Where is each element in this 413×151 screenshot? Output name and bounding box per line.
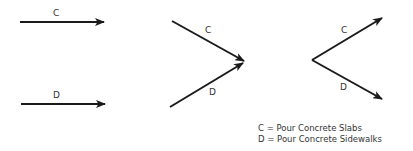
- label-d-merge: D: [209, 88, 216, 97]
- label-c-parallel: C: [53, 9, 59, 18]
- legend-item-c: C = Pour Concrete Slabs: [258, 123, 382, 134]
- label-d-parallel: D: [53, 91, 60, 100]
- arrow-c-burst: [312, 18, 382, 60]
- label-c-merge: C: [205, 26, 211, 35]
- legend: C = Pour Concrete Slabs D = Pour Concret…: [258, 123, 382, 145]
- arrow-d-merge: [170, 63, 243, 107]
- legend-item-d: D = Pour Concrete Sidewalks: [258, 134, 382, 145]
- arrow-d-burst: [312, 60, 382, 99]
- label-d-burst: D: [340, 83, 347, 92]
- label-c-burst: C: [341, 26, 347, 35]
